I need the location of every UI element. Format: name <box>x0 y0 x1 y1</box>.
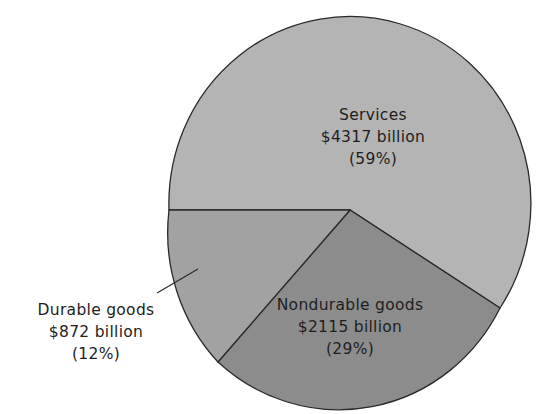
label-nondurable-goods: Nondurable goods $2115 billion (29%) <box>270 294 430 360</box>
label-nondurable-value: $2115 billion <box>270 316 430 338</box>
label-durable-name: Durable goods <box>26 299 166 321</box>
label-durable-goods: Durable goods $872 billion (12%) <box>26 299 166 365</box>
label-nondurable-pct: (29%) <box>270 338 430 360</box>
label-services-value: $4317 billion <box>308 126 438 148</box>
label-durable-value: $872 billion <box>26 321 166 343</box>
label-services: Services $4317 billion (59%) <box>308 104 438 170</box>
label-services-pct: (59%) <box>308 148 438 170</box>
label-nondurable-name: Nondurable goods <box>270 294 430 316</box>
label-services-name: Services <box>308 104 438 126</box>
label-durable-pct: (12%) <box>26 343 166 365</box>
